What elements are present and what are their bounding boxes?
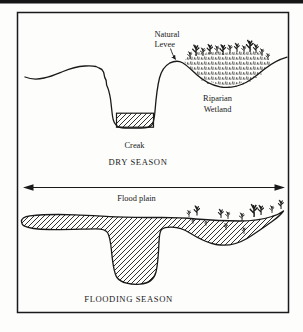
flooding-season-title: FLOODING SEASON [84, 294, 173, 304]
page-edge-bar [0, 0, 303, 4]
creek-water-hatched [117, 113, 154, 127]
flood-plain-label: Flood plain [117, 194, 156, 203]
wetland-vegetation-mass [184, 50, 270, 86]
dry-season-title: DRY SEASON [109, 157, 168, 167]
riparian-wetland-label-line1: Riparian [203, 94, 233, 103]
flood-water-body [21, 211, 283, 284]
river-cross-section-diagram: Natural Levee Riparian Wetland Creak DRY… [0, 0, 303, 332]
natural-levee-pointer-arrow [171, 49, 176, 60]
flood-plain-extent-arrow [23, 184, 285, 191]
natural-levee-label-line2: Levee [155, 40, 176, 49]
natural-levee-label-line1: Natural [155, 30, 181, 39]
riparian-wetland-label-line2: Wetland [204, 105, 233, 114]
figure-canvas: Natural Levee Riparian Wetland Creak DRY… [0, 0, 303, 332]
creek-label: Creak [125, 141, 146, 150]
